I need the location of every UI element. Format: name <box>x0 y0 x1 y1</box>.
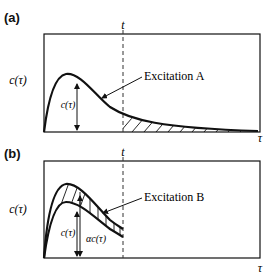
panel-b-t-label: t <box>121 145 125 159</box>
panel-a-inner-c-label: c(τ) <box>61 99 76 111</box>
panel-a-x-label: τ <box>258 131 263 145</box>
panel-a-frame <box>44 34 260 132</box>
panel-b-inner-alpha-label: αc(τ) <box>86 233 107 245</box>
panel-b-annotation: Excitation B <box>144 190 204 204</box>
panel-a-y-label: c(τ) <box>9 73 27 87</box>
panel-b: t c(τ) αc(τ) c(τ) Excitation B τ <box>9 145 263 275</box>
panel-b-curve-scaled <box>44 184 123 258</box>
panel-a-annotation-arrow <box>102 77 142 98</box>
panel-b-inner-c-label: c(τ) <box>61 227 76 239</box>
panel-b-frame <box>44 161 260 258</box>
panel-b-y-label: c(τ) <box>9 202 27 216</box>
panel-a-annotation: Excitation A <box>144 69 205 83</box>
panel-a: t c(τ) c(τ) Excitation A τ <box>9 18 263 145</box>
panel-b-x-label: τ <box>258 261 263 275</box>
panel-a-t-label: t <box>121 18 125 32</box>
